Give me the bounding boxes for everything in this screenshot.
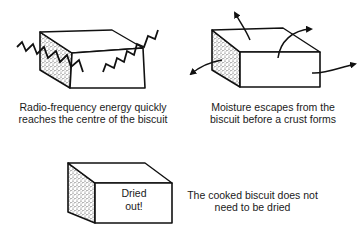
box-label-dried-out: Dried out! xyxy=(100,187,168,213)
caption-rf-energy: Radio-frequency energy quickly reaches t… xyxy=(18,101,168,125)
biscuit-block-rf xyxy=(40,30,145,88)
box-label-line1: Dried xyxy=(100,187,168,200)
caption-moisture-escapes: Moisture escapes from the biscuit before… xyxy=(198,101,348,125)
box-label-line2: out! xyxy=(100,200,168,213)
caption-no-drying: The cooked biscuit does not need to be d… xyxy=(185,189,320,213)
biscuit-block-moisture xyxy=(212,28,320,87)
